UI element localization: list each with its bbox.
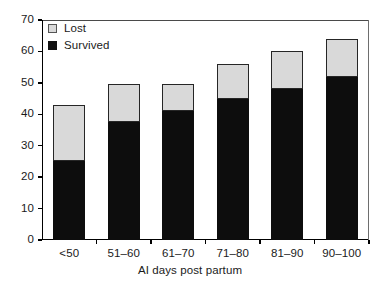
- y-tick-mark: [38, 51, 42, 52]
- x-tick-label: 61–70: [151, 247, 206, 259]
- survived-swatch-icon: [48, 41, 57, 50]
- x-tick-label: 51–60: [97, 247, 152, 259]
- stacked-bar-chart: 010203040506070 <5051–6061–7071–8081–909…: [0, 0, 380, 283]
- y-tick-label: 40: [0, 108, 34, 120]
- x-tick-mark: [368, 240, 369, 244]
- bar-segment-survived: [162, 111, 194, 240]
- legend-label-survived: Survived: [64, 39, 110, 52]
- bar-7180: [217, 64, 249, 240]
- y-tick-mark: [38, 82, 42, 83]
- bar-segment-survived: [271, 89, 303, 240]
- x-axis-title: AI days post partum: [0, 264, 380, 276]
- x-tick-label: 81–90: [260, 247, 315, 259]
- y-tick-label: 50: [0, 77, 34, 89]
- x-tick-label: 71–80: [206, 247, 261, 259]
- bar-5160: [108, 84, 140, 240]
- bar-segment-survived: [108, 122, 140, 240]
- plot-area: [42, 20, 369, 240]
- x-tick-label: <50: [42, 247, 97, 259]
- x-tick-mark: [205, 240, 206, 244]
- bar-6170: [162, 84, 194, 240]
- y-tick-mark: [38, 114, 42, 115]
- x-tick-mark: [150, 240, 151, 244]
- lost-swatch-icon: [48, 24, 57, 33]
- x-tick-mark: [259, 240, 260, 244]
- x-tick-mark: [314, 240, 315, 244]
- bar-segment-lost: [271, 51, 303, 89]
- bar-90100: [326, 39, 358, 240]
- y-tick-label: 10: [0, 203, 34, 215]
- legend-label-lost: Lost: [64, 22, 86, 35]
- bar-50: [53, 105, 85, 240]
- bar-segment-survived: [326, 77, 358, 240]
- y-tick-mark: [38, 145, 42, 146]
- y-tick-mark: [38, 19, 42, 20]
- bar-segment-lost: [53, 105, 85, 162]
- x-tick-label: 90–100: [315, 247, 370, 259]
- y-tick-label: 60: [0, 45, 34, 57]
- y-tick-label: 20: [0, 171, 34, 183]
- y-tick-label: 70: [0, 14, 34, 26]
- y-tick-mark: [38, 208, 42, 209]
- bar-segment-lost: [162, 84, 194, 111]
- bar-segment-survived: [53, 161, 85, 240]
- x-tick-mark: [96, 240, 97, 244]
- y-tick-mark: [38, 176, 42, 177]
- bar-segment-lost: [108, 84, 140, 122]
- bar-segment-survived: [217, 99, 249, 240]
- bar-8190: [271, 51, 303, 240]
- bar-segment-lost: [217, 64, 249, 99]
- y-tick-mark: [38, 239, 42, 240]
- chart-right-rule: [368, 20, 369, 240]
- bar-segment-lost: [326, 39, 358, 77]
- y-tick-label: 30: [0, 140, 34, 152]
- y-tick-label: 0: [0, 234, 34, 246]
